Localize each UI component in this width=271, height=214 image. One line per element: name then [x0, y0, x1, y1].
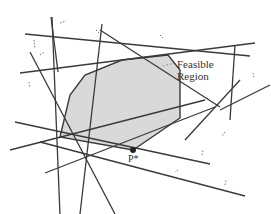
feasible-region-diagram: Feasible Region P* — [0, 0, 271, 214]
constraint-line — [185, 80, 240, 140]
feasible-label-line1: Feasible — [177, 58, 214, 70]
constraint-line — [25, 34, 250, 56]
direction-arrow-icon — [175, 170, 178, 172]
direction-arrow-icon — [29, 82, 30, 88]
direction-arrow-icon — [96, 30, 99, 33]
feasible-label-line2: Region — [177, 70, 209, 82]
constraint-line — [52, 17, 60, 214]
constraint-line — [220, 85, 270, 110]
direction-arrow-icon — [225, 180, 226, 185]
diagram-svg — [0, 0, 271, 214]
optimal-point-label: P* — [128, 153, 139, 165]
direction-arrow-icon — [40, 52, 44, 55]
direction-arrow-icon — [253, 73, 254, 77]
direction-arrow-icon — [34, 40, 35, 48]
direction-arrow-icon — [202, 150, 203, 155]
direction-arrow-icon — [222, 132, 225, 136]
constraint-line — [230, 45, 235, 120]
direction-arrow-icon — [160, 35, 163, 38]
direction-arrow-icon — [60, 21, 66, 23]
